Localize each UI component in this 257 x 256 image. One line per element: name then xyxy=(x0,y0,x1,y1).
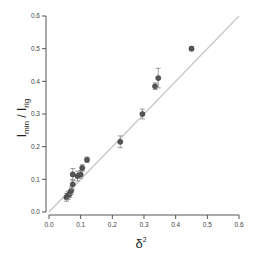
svg-text:Imin / Irig: Imin / Irig xyxy=(15,99,31,137)
y-tick-label: 0.5 xyxy=(31,45,40,52)
x-tick-label: 0.5 xyxy=(203,221,212,228)
data-point xyxy=(189,46,194,51)
x-tick-label: 0.1 xyxy=(76,221,85,228)
scatter-chart: 0.00.10.20.30.40.50.60.00.10.20.30.40.50… xyxy=(0,0,257,256)
y-tick-label: 0.0 xyxy=(31,208,40,215)
marker xyxy=(80,165,85,170)
y-tick-label: 0.2 xyxy=(31,143,40,150)
y-tick-label: 0.6 xyxy=(31,12,40,19)
x-tick-label: 0.3 xyxy=(139,221,148,228)
y-tick-label: 0.3 xyxy=(31,110,40,117)
y-axis-title: Imin / Irig xyxy=(15,99,31,137)
x-axis-title: δ2 xyxy=(135,236,146,251)
data-point xyxy=(152,83,157,90)
marker xyxy=(140,111,145,116)
data-point xyxy=(118,136,123,148)
marker xyxy=(189,46,194,51)
data-points xyxy=(64,46,194,201)
marker xyxy=(78,172,83,177)
data-point xyxy=(84,157,89,162)
marker xyxy=(70,172,75,177)
data-point xyxy=(70,169,75,181)
svg-text:δ2: δ2 xyxy=(135,236,146,251)
marker xyxy=(156,75,161,80)
x-tick-label: 0.2 xyxy=(108,221,117,228)
y-tick-label: 0.4 xyxy=(31,78,40,85)
x-tick-label: 0.0 xyxy=(44,221,53,228)
x-tick-label: 0.4 xyxy=(171,221,180,228)
x-tick-label: 0.6 xyxy=(234,221,243,228)
marker xyxy=(84,157,89,162)
marker xyxy=(70,182,75,187)
y-tick-label: 0.1 xyxy=(31,176,40,183)
marker xyxy=(118,139,123,144)
